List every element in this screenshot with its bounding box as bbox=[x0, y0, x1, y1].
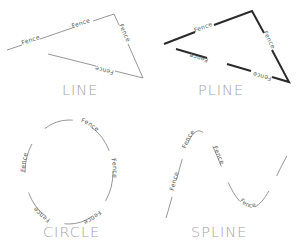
fence-text: Fence bbox=[111, 158, 119, 179]
fence-text: Fence bbox=[70, 16, 90, 29]
fence-text: Fence bbox=[168, 171, 180, 191]
fence-text: Fence bbox=[212, 145, 226, 166]
spline-label: SPLINE bbox=[191, 224, 247, 240]
fence-text: Fence bbox=[20, 33, 40, 46]
circle-label: CIRCLE bbox=[43, 224, 100, 240]
fence-text: Fence bbox=[262, 30, 277, 50]
fence-text: Fence bbox=[193, 20, 213, 33]
spline-example: Fence Fence Fence Fence SPLINE bbox=[166, 128, 292, 240]
fence-text: Fence bbox=[180, 128, 196, 149]
fence-text: Fence bbox=[118, 22, 132, 42]
circle-example: Fence Fence Fence Fence Fence CIRCLE bbox=[19, 116, 119, 240]
fence-text: Fence bbox=[31, 206, 50, 224]
line-label: LINE bbox=[62, 82, 98, 98]
fence-text: Fence bbox=[252, 71, 272, 83]
pline-label: PLINE bbox=[198, 82, 244, 98]
pline-example: Fence Fence Fence Fence PLINE bbox=[164, 11, 289, 98]
fence-text: Fence bbox=[188, 52, 208, 64]
fence-text: Fence bbox=[94, 65, 114, 76]
linetype-diagram: Fence Fence Fence Fence LINE Fence Fence… bbox=[0, 0, 299, 243]
fence-text: Fence bbox=[80, 116, 101, 132]
fence-text: Fence bbox=[239, 197, 257, 209]
fence-text: Fence bbox=[19, 151, 29, 172]
line-example: Fence Fence Fence Fence LINE bbox=[7, 14, 143, 98]
